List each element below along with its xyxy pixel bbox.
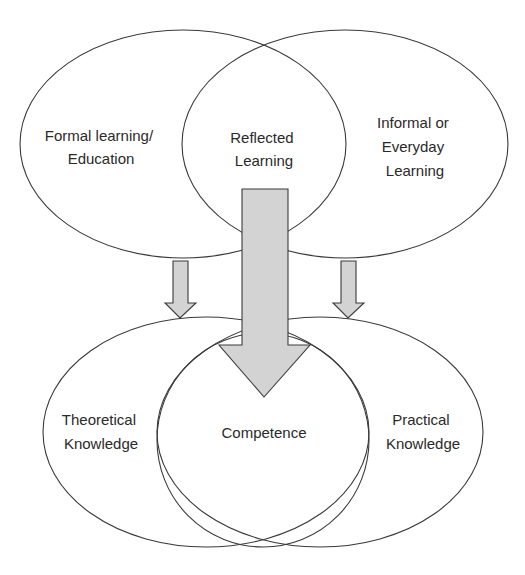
- ellipse-theoretical-knowledge: [43, 317, 369, 547]
- label-theoretical-knowledge: Theoretical Knowledge: [62, 411, 140, 452]
- label-informal-learning: Informal or Everyday Learning: [377, 114, 453, 179]
- label-formal-learning: Formal learning/ Education: [45, 127, 158, 167]
- diagram-canvas: Formal learning/ Education Reflected Lea…: [0, 0, 525, 575]
- ellipse-practical-knowledge: [157, 317, 483, 547]
- label-reflected-learning: Reflected Learning: [230, 129, 298, 169]
- venn-diagram: Formal learning/ Education Reflected Lea…: [0, 0, 525, 575]
- arrow-down-icon-right: [333, 261, 364, 318]
- arrow-down-icon-left: [165, 261, 196, 318]
- label-competence: Competence: [221, 424, 306, 441]
- arrow-down-icon-center: [219, 189, 310, 397]
- label-practical-knowledge: Practical Knowledge: [386, 411, 460, 452]
